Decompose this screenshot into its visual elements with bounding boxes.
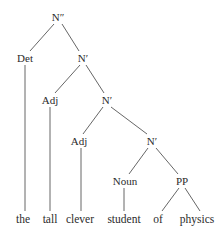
tree-node-n1a: N′ — [77, 52, 89, 64]
tree-edges — [0, 0, 220, 241]
edge-pp-w_physics — [185, 188, 200, 211]
tree-node-n1c: N′ — [146, 135, 158, 147]
edge-pp-w_of — [162, 188, 179, 211]
terminal-word-w_clever: clever — [65, 213, 95, 225]
tree-node-n1b: N′ — [101, 94, 113, 106]
edge-n1a-adj1 — [55, 65, 80, 93]
tree-node-det: Det — [16, 52, 34, 64]
edge-n1b-n1c — [111, 107, 147, 134]
terminal-word-w_the: the — [15, 213, 31, 225]
terminal-word-w_tall: tall — [42, 213, 59, 225]
edge-n1c-noun — [129, 148, 148, 174]
terminal-word-w_student: student — [106, 213, 141, 225]
tree-node-adj1: Adj — [41, 94, 60, 106]
edge-n2-det — [30, 24, 54, 51]
syntax-tree-diagram: N″DetN′AdjN′AdjN′NounPPthetallcleverstud… — [0, 0, 220, 241]
tree-node-n2: N″ — [51, 11, 66, 23]
edge-n2-n1a — [62, 24, 79, 51]
terminal-word-w_of: of — [152, 213, 164, 225]
edge-n1b-adj2 — [83, 107, 103, 134]
terminal-word-w_physics: physics — [179, 213, 216, 225]
tree-node-noun: Noun — [112, 175, 138, 187]
edge-n1a-n1b — [86, 65, 104, 93]
tree-node-pp: PP — [175, 175, 189, 187]
edge-n1c-pp — [156, 148, 178, 174]
tree-node-adj2: Adj — [70, 135, 89, 147]
